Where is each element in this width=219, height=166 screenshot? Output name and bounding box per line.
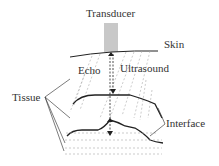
transducer-label: Transducer	[86, 8, 135, 19]
transducer-probe	[104, 23, 118, 52]
echo-label: Echo	[78, 65, 101, 76]
diagram-canvas	[0, 0, 219, 166]
interface-label: Interface	[166, 118, 205, 129]
ultrasound-arrowhead	[110, 89, 116, 94]
skin-line	[70, 51, 158, 57]
ultrasound-label: Ultrasound	[120, 63, 169, 74]
tissue-label: Tissue	[12, 92, 40, 103]
ultrasound-arrowhead-2	[107, 131, 113, 136]
skin-label: Skin	[164, 39, 184, 50]
tissue-layers	[65, 133, 162, 154]
interface-leaders	[150, 108, 165, 136]
interface-line-2	[67, 120, 163, 143]
